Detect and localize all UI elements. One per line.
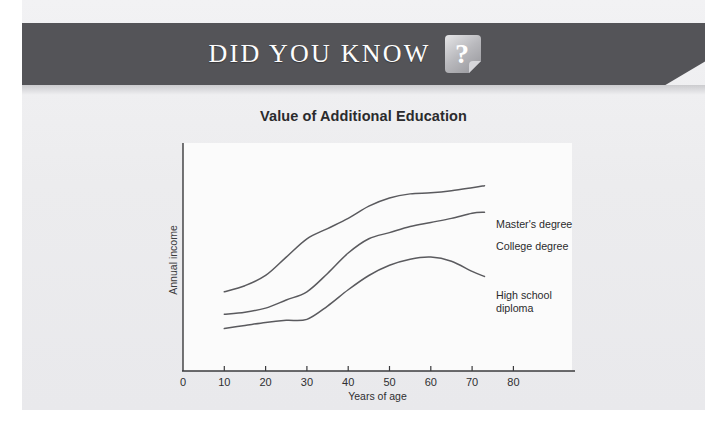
series-label-highschool: High school diploma bbox=[496, 289, 552, 314]
x-tick-60: 60 bbox=[419, 376, 443, 388]
banner-title: DID YOU KNOW bbox=[209, 39, 431, 69]
x-tick-40: 40 bbox=[336, 376, 360, 388]
series-label-masters: Master's degree bbox=[496, 218, 572, 231]
x-tick-10: 10 bbox=[212, 376, 236, 388]
x-tick-50: 50 bbox=[378, 376, 402, 388]
page-root: DID YOU KNOW ? Value of Addit bbox=[0, 0, 727, 438]
chart-title: Value of Additional Education bbox=[0, 108, 727, 124]
svg-text:?: ? bbox=[455, 38, 469, 69]
x-tick-0: 0 bbox=[171, 376, 195, 388]
banner-drop-shadow bbox=[22, 85, 705, 95]
chart-canvas bbox=[160, 140, 600, 410]
x-tick-30: 30 bbox=[295, 376, 319, 388]
did-you-know-banner: DID YOU KNOW ? bbox=[22, 23, 705, 85]
series-label-college: College degree bbox=[496, 240, 569, 253]
x-tick-20: 20 bbox=[254, 376, 278, 388]
chart-svg bbox=[160, 140, 600, 410]
x-tick-80: 80 bbox=[501, 376, 525, 388]
x-axis-label: Years of age bbox=[183, 390, 572, 402]
x-tick-70: 70 bbox=[460, 376, 484, 388]
question-mark-note-icon: ? bbox=[444, 34, 482, 74]
